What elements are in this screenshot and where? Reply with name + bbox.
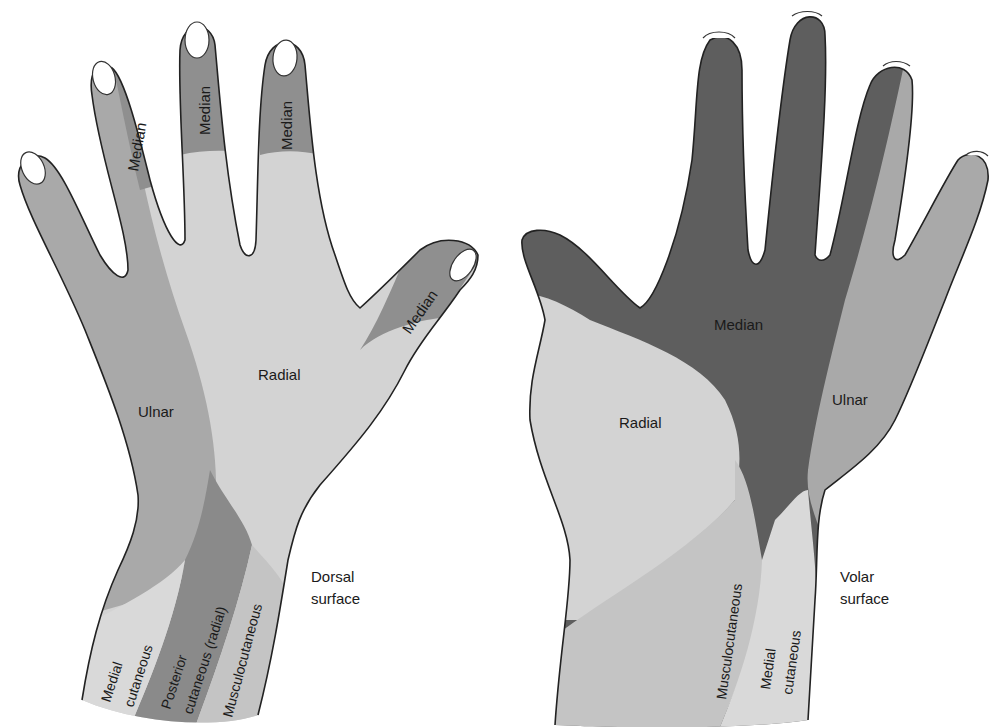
dorsal-hand: Median Median Median Median Radial Ulnar… [0, 0, 500, 727]
label-dorsal-surface-1: Dorsal [311, 568, 354, 585]
label-volar-surface-2: surface [840, 590, 889, 607]
label-radial-dorsal: Radial [258, 366, 301, 383]
index-nail-edge [703, 32, 735, 38]
label-volar-surface-1: Volar [840, 568, 874, 585]
ring-nail-edge [883, 62, 910, 67]
label-median-index: Median [278, 101, 295, 150]
label-median-volar: Median [714, 316, 763, 333]
volar-hand: Median Radial Ulnar Musculocutaneous Med… [500, 0, 993, 727]
middle-nail-edge [792, 12, 822, 17]
middle-fingernail [185, 22, 209, 58]
label-dorsal-surface-2: surface [311, 590, 360, 607]
nerve-distribution-diagram: Median Median Median Median Radial Ulnar… [0, 0, 993, 727]
label-radial-volar: Radial [619, 414, 662, 431]
label-median-middle: Median [196, 86, 213, 135]
label-ulnar-volar: Ulnar [832, 391, 868, 408]
label-ulnar-dorsal: Ulnar [138, 403, 174, 420]
